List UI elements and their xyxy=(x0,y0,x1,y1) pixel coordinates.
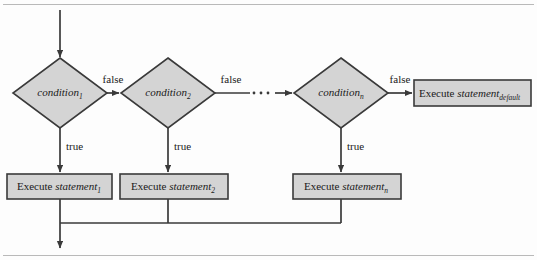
edge-label-false-n: false xyxy=(390,73,411,85)
edge-label-true-1: true xyxy=(66,140,83,152)
edge-label-false-1: false xyxy=(103,73,124,85)
flowchart-figure: condition1 condition2 conditionn Execute… xyxy=(0,0,537,260)
edge-label-true-n: true xyxy=(347,140,364,152)
edge-label-false-2: false xyxy=(221,73,242,85)
edge-label-true-2: true xyxy=(174,140,191,152)
ellipsis-dots xyxy=(253,92,270,95)
